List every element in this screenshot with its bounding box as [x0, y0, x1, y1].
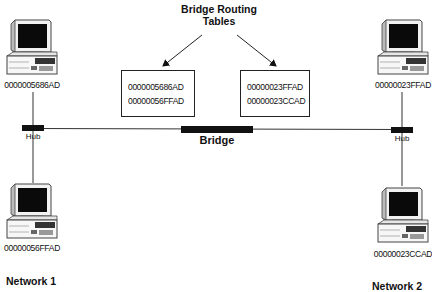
network-1-label: Network 1	[6, 275, 56, 287]
bridge-device	[181, 126, 253, 133]
title-line-1: Bridge Routing	[181, 3, 257, 15]
title-line-2: Tables	[181, 15, 257, 27]
computer-icon	[5, 182, 59, 240]
hub-label-left: Hub	[26, 132, 41, 141]
network-2-label: Network 2	[372, 280, 422, 292]
computer-mac-label: 00000023CCAD	[374, 249, 432, 259]
hub-left	[22, 125, 44, 131]
table-entry: 0000005686AD	[128, 80, 194, 94]
computer-icon	[376, 18, 430, 76]
table-entry: 00000056FFAD	[128, 94, 194, 108]
arrow-left	[163, 35, 202, 66]
routing-tables-title: Bridge Routing Tables	[181, 3, 257, 27]
routing-table-left: 0000005686AD 00000056FFAD	[121, 70, 195, 117]
routing-table-right: 00000023FFAD 00000023CCAD	[240, 70, 310, 117]
hub-right	[391, 127, 413, 133]
computer-icon	[376, 186, 430, 244]
arrow-right	[237, 35, 276, 66]
hub-label-right: Hub	[395, 134, 410, 143]
computer-mac-label: 00000056FFAD	[4, 243, 60, 253]
computer-mac-label: 0000005686AD	[4, 80, 59, 90]
computer-icon	[5, 18, 59, 76]
bridge-label: Bridge	[200, 134, 235, 146]
table-entry: 00000023FFAD	[247, 80, 309, 94]
table-entry: 00000023CCAD	[247, 94, 309, 108]
computer-mac-label: 00000023FFAD	[375, 80, 431, 90]
